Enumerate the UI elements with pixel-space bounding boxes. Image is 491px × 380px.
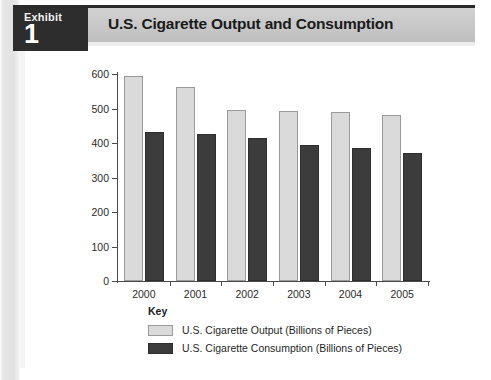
- exhibit-header: Exhibit 1 U.S. Cigarette Output and Cons…: [13, 5, 475, 51]
- title-bar-shadow: [88, 42, 475, 46]
- legend-item: U.S. Cigarette Consumption (Billions of …: [148, 340, 468, 356]
- x-axis-tick: [221, 282, 222, 286]
- x-axis-tick: [376, 282, 377, 286]
- chart-legend: Key U.S. Cigarette Output (Billions of P…: [148, 305, 468, 358]
- x-axis-tick: [428, 282, 429, 286]
- x-axis-tick: [170, 282, 171, 286]
- bar-group: [176, 74, 216, 281]
- bar-consumption: [352, 148, 371, 281]
- x-axis-label: 2002: [224, 288, 270, 300]
- title-bar: U.S. Cigarette Output and Consumption: [88, 8, 475, 42]
- exhibit-badge: Exhibit 1: [13, 8, 88, 51]
- legend-label: U.S. Cigarette Output (Billions of Piece…: [182, 324, 372, 336]
- x-axis-label: 2001: [173, 288, 219, 300]
- legend-label: U.S. Cigarette Consumption (Billions of …: [182, 342, 402, 354]
- bar-output: [382, 115, 401, 281]
- bar-consumption: [248, 138, 267, 281]
- bar-output: [124, 76, 143, 281]
- y-axis-tick: [112, 247, 117, 248]
- source-note-faint: [22, 369, 472, 377]
- y-axis-label: 400: [69, 137, 109, 149]
- x-axis-tick: [273, 282, 274, 286]
- y-axis-label: 500: [69, 103, 109, 115]
- y-axis-tick: [112, 212, 117, 213]
- y-axis-tick: [112, 74, 117, 75]
- bar-consumption: [300, 145, 319, 281]
- legend-item: U.S. Cigarette Output (Billions of Piece…: [148, 322, 468, 338]
- bar-output: [279, 111, 298, 281]
- bar-group: [331, 74, 371, 281]
- y-axis-tick: [112, 143, 117, 144]
- x-axis-tick: [325, 282, 326, 286]
- x-axis-label: 2004: [328, 288, 374, 300]
- y-axis-label: 200: [69, 206, 109, 218]
- y-axis-tick: [112, 178, 117, 179]
- bar-consumption: [403, 153, 422, 281]
- legend-title: Key: [148, 305, 468, 317]
- page-title: U.S. Cigarette Output and Consumption: [108, 15, 393, 33]
- legend-items: U.S. Cigarette Output (Billions of Piece…: [148, 322, 468, 356]
- bar-chart: 0100200300400500600 20002001200220032004…: [0, 55, 491, 305]
- y-axis-label: 600: [69, 68, 109, 80]
- y-axis-label: 300: [69, 172, 109, 184]
- legend-swatch-output: [148, 325, 173, 336]
- bar-consumption: [145, 132, 164, 281]
- y-axis-label: 0: [69, 275, 109, 287]
- bar-group: [279, 74, 319, 281]
- x-axis-label: 2000: [121, 288, 167, 300]
- bar-group: [124, 74, 164, 281]
- bar-output: [176, 87, 195, 281]
- x-axis-label: 2003: [276, 288, 322, 300]
- bar-output: [227, 110, 246, 281]
- x-axis-label: 2005: [379, 288, 425, 300]
- y-axis-label: 100: [69, 241, 109, 253]
- legend-swatch-consumption: [148, 343, 173, 354]
- plot-area: [118, 74, 428, 281]
- exhibit-number: 1: [24, 21, 39, 48]
- y-axis-tick: [112, 281, 117, 282]
- bar-output: [331, 112, 350, 281]
- bar-group: [382, 74, 422, 281]
- bar-group: [227, 74, 267, 281]
- y-axis-tick: [112, 109, 117, 110]
- bar-consumption: [197, 134, 216, 281]
